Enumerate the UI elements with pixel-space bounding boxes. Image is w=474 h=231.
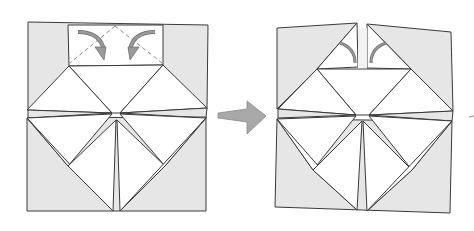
next-arrow-partial-icon bbox=[469, 116, 474, 117]
top-gap bbox=[358, 28, 367, 68]
right-arrow-icon bbox=[218, 101, 266, 134]
step-before-figure bbox=[27, 22, 208, 211]
origami-diagram: Origami folding step bbox=[0, 0, 474, 231]
step-after-figure bbox=[275, 23, 453, 213]
